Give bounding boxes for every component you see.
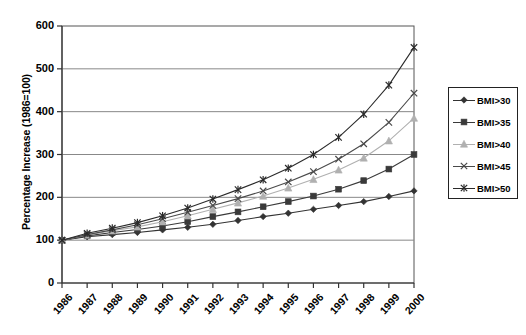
data-point-marker — [460, 140, 467, 147]
legend-marker-icon — [452, 138, 476, 150]
legend-marker-icon — [452, 94, 476, 106]
legend-marker-icon — [452, 182, 476, 194]
data-point-marker — [461, 184, 467, 192]
legend-item[interactable]: BMI>30 — [449, 89, 517, 111]
data-point-marker — [361, 178, 367, 184]
legend-item[interactable]: BMI>50 — [449, 177, 517, 199]
data-point-marker — [336, 186, 342, 192]
data-point-marker — [411, 152, 417, 158]
data-point-marker — [461, 119, 467, 125]
legend-item[interactable]: BMI>35 — [449, 111, 517, 133]
legend-item-label: BMI>45 — [477, 161, 511, 172]
data-point-marker — [210, 214, 216, 220]
chart-container: Percentage Increase (1986=100) 600500400… — [0, 0, 526, 335]
data-point-marker — [260, 204, 266, 210]
data-point-marker — [461, 97, 467, 103]
data-point-marker — [285, 199, 291, 205]
legend: BMI>30BMI>35BMI>40BMI>45BMI>50 — [448, 87, 518, 199]
legend-marker-icon — [452, 160, 476, 172]
legend-item-label: BMI>40 — [477, 139, 511, 150]
legend-item[interactable]: BMI>40 — [449, 133, 517, 155]
legend-item[interactable]: BMI>45 — [449, 155, 517, 177]
data-point-marker — [185, 219, 191, 225]
data-point-marker — [461, 163, 467, 169]
legend-item-label: BMI>35 — [477, 117, 511, 128]
legend-item-label: BMI>50 — [477, 183, 511, 194]
data-point-marker — [386, 166, 392, 172]
legend-marker-icon — [452, 116, 476, 128]
data-point-marker — [235, 209, 241, 215]
legend-item-label: BMI>30 — [477, 95, 511, 106]
data-point-marker — [311, 193, 317, 199]
